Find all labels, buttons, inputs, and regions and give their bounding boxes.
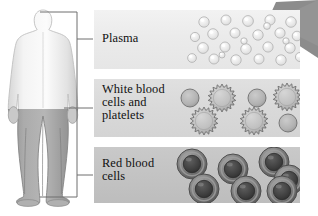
- panel-label-white-blood-cells: White blood cells and platelets: [102, 83, 165, 123]
- panel-white-blood-cells: White blood cells and platelets: [94, 79, 300, 137]
- human-body-figure: [4, 8, 82, 208]
- panel-red-blood-cells: Red blood cells: [94, 147, 300, 203]
- panel-label-plasma: Plasma: [102, 32, 138, 45]
- human-body-svg: [4, 8, 82, 208]
- feet: [17, 200, 69, 207]
- panel-plasma: Plasma: [94, 10, 300, 69]
- blood-composition-diagram: Plasma White blood cells and platelets: [0, 0, 318, 216]
- panel-label-red-blood-cells: Red blood cells: [102, 157, 154, 183]
